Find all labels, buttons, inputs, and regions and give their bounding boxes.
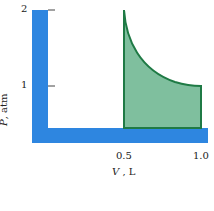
y-axis-variable: P — [0, 119, 9, 126]
y-axis-title: P, atm — [0, 93, 9, 126]
y-axis-bar — [32, 10, 48, 143]
x-axis-title: V , L — [112, 166, 135, 177]
work-area — [124, 10, 201, 128]
y-tick-label-1: 1 — [21, 79, 27, 90]
x-axis-unit: , L — [119, 166, 135, 177]
y-tick-label-2: 2 — [21, 3, 27, 14]
x-tick-label-1.0: 1.0 — [193, 150, 209, 161]
y-axis-unit: , atm — [0, 93, 9, 119]
x-tick-label-0.5: 0.5 — [116, 150, 132, 161]
pv-diagram — [0, 0, 214, 211]
x-axis-bar — [32, 128, 208, 143]
